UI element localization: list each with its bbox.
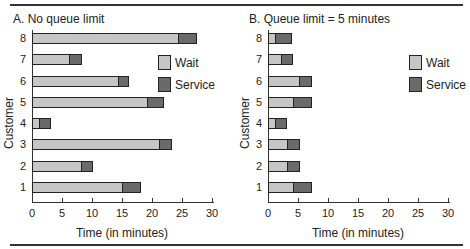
x-tick bbox=[298, 198, 299, 202]
wait-segment bbox=[269, 55, 281, 64]
legend-item-service: Service bbox=[409, 77, 466, 92]
bar-customer-5 bbox=[32, 97, 164, 108]
service-segment bbox=[178, 34, 196, 43]
service-segment bbox=[81, 162, 92, 171]
bar-customer-5 bbox=[268, 97, 312, 108]
y-tick-label: 5 bbox=[252, 96, 262, 108]
x-tick-label: 20 bbox=[378, 207, 398, 219]
wait-segment bbox=[33, 98, 147, 107]
y-tick-label: 2 bbox=[252, 160, 262, 172]
x-axis bbox=[268, 202, 450, 203]
x-tick bbox=[418, 198, 419, 202]
y-tick-label: 3 bbox=[252, 138, 262, 150]
y-tick-label: 7 bbox=[252, 53, 262, 65]
service-segment bbox=[69, 55, 81, 64]
panel-a: A. No queue limit 051015202530Time (in m… bbox=[0, 0, 235, 249]
bar-customer-7 bbox=[268, 54, 293, 65]
bar-customer-3 bbox=[32, 139, 172, 150]
x-tick-label: 5 bbox=[288, 207, 308, 219]
wait-segment bbox=[269, 77, 299, 86]
service-segment bbox=[275, 34, 291, 43]
y-tick-label: 3 bbox=[16, 138, 26, 150]
legend: Wait Service bbox=[158, 55, 215, 99]
service-swatch bbox=[409, 77, 422, 92]
x-tick bbox=[328, 198, 329, 202]
x-tick-label: 15 bbox=[112, 207, 132, 219]
wait-segment bbox=[33, 77, 118, 86]
bar-customer-8 bbox=[32, 33, 197, 44]
bar-customer-2 bbox=[268, 161, 300, 172]
bar-customer-4 bbox=[32, 118, 51, 129]
x-tick bbox=[152, 198, 153, 202]
x-tick bbox=[32, 198, 33, 202]
x-tick-label: 0 bbox=[22, 207, 42, 219]
bar-customer-1 bbox=[32, 182, 141, 193]
y-tick-label: 1 bbox=[252, 181, 262, 193]
wait-segment bbox=[33, 162, 81, 171]
service-segment bbox=[118, 77, 128, 86]
legend-label: Service bbox=[175, 78, 215, 92]
x-tick bbox=[388, 198, 389, 202]
x-tick bbox=[182, 198, 183, 202]
wait-swatch bbox=[158, 55, 171, 70]
bar-customer-2 bbox=[32, 161, 93, 172]
y-tick-label: 1 bbox=[16, 181, 26, 193]
bar-customer-4 bbox=[268, 118, 287, 129]
bar-customer-3 bbox=[268, 139, 300, 150]
legend-item-wait: Wait bbox=[409, 55, 466, 70]
service-segment bbox=[293, 98, 311, 107]
service-segment bbox=[275, 119, 286, 128]
wait-segment bbox=[269, 183, 293, 192]
x-axis-title: Time (in minutes) bbox=[268, 226, 448, 240]
x-tick-label: 20 bbox=[142, 207, 162, 219]
service-segment bbox=[147, 98, 163, 107]
x-tick bbox=[62, 198, 63, 202]
wait-segment bbox=[33, 140, 159, 149]
x-axis-title: Time (in minutes) bbox=[32, 226, 212, 240]
bar-customer-6 bbox=[32, 76, 129, 87]
x-tick bbox=[268, 198, 269, 202]
x-tick-label: 25 bbox=[408, 207, 428, 219]
wait-segment bbox=[33, 55, 69, 64]
y-tick-label: 6 bbox=[16, 75, 26, 87]
wait-segment bbox=[33, 34, 178, 43]
wait-swatch bbox=[409, 55, 422, 70]
x-tick bbox=[212, 198, 213, 202]
x-axis bbox=[32, 202, 214, 203]
x-tick-label: 10 bbox=[318, 207, 338, 219]
service-swatch bbox=[158, 77, 171, 92]
y-tick-label: 5 bbox=[16, 96, 26, 108]
legend-label: Service bbox=[426, 78, 466, 92]
x-tick bbox=[358, 198, 359, 202]
service-segment bbox=[287, 162, 299, 171]
panel-b: B. Queue limit = 5 minutes 051015202530T… bbox=[236, 0, 470, 249]
bar-customer-6 bbox=[268, 76, 312, 87]
y-tick-label: 7 bbox=[16, 53, 26, 65]
wait-segment bbox=[269, 162, 287, 171]
service-segment bbox=[39, 119, 50, 128]
legend-item-service: Service bbox=[158, 77, 215, 92]
y-axis-title: Customer bbox=[238, 93, 252, 153]
legend-item-wait: Wait bbox=[158, 55, 215, 70]
x-tick bbox=[122, 198, 123, 202]
panel-title: A. No queue limit bbox=[13, 12, 104, 26]
bar-customer-8 bbox=[268, 33, 292, 44]
wait-segment bbox=[33, 183, 122, 192]
service-segment bbox=[159, 140, 171, 149]
y-tick-label: 8 bbox=[252, 32, 262, 44]
service-segment bbox=[281, 55, 292, 64]
bar-customer-1 bbox=[268, 182, 312, 193]
y-tick-label: 6 bbox=[252, 75, 262, 87]
x-tick-label: 15 bbox=[348, 207, 368, 219]
y-tick-label: 8 bbox=[16, 32, 26, 44]
x-tick-label: 5 bbox=[52, 207, 72, 219]
x-tick bbox=[92, 198, 93, 202]
x-tick-label: 30 bbox=[202, 207, 222, 219]
y-axis-title: Customer bbox=[2, 93, 16, 153]
panel-title: B. Queue limit = 5 minutes bbox=[249, 12, 390, 26]
y-tick-label: 4 bbox=[252, 117, 262, 129]
legend: Wait Service bbox=[409, 55, 466, 99]
x-tick bbox=[448, 198, 449, 202]
x-tick-label: 30 bbox=[438, 207, 458, 219]
y-tick-label: 2 bbox=[16, 160, 26, 172]
